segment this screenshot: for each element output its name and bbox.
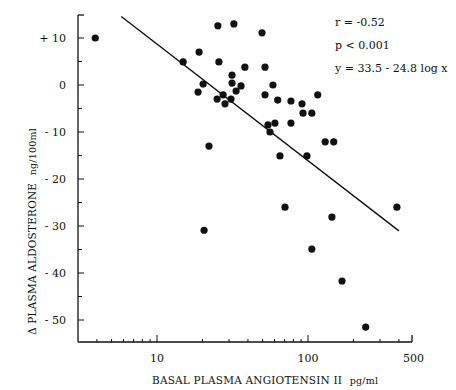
data-point xyxy=(261,91,268,98)
y-tick-label: - 10 xyxy=(45,126,66,139)
y-tick-label: - 50 xyxy=(45,314,66,327)
data-point xyxy=(271,119,278,126)
x-tick-label: 500 xyxy=(403,352,424,365)
data-point xyxy=(232,88,239,95)
data-point xyxy=(314,91,321,98)
data-point xyxy=(281,204,288,211)
data-point xyxy=(195,49,202,56)
y-tick-label: - 30 xyxy=(45,220,66,233)
svg-text:Δ PLASMA ALDOSTERONE ng/: Δ PLASMA ALDOSTERONE ng/100ml xyxy=(26,128,38,335)
data-point xyxy=(194,88,201,95)
data-point xyxy=(287,119,294,126)
statistics-annotation: r = -0.52 p < 0.001 y = 33.5 - 24.8 log … xyxy=(334,16,448,75)
y-tick-label: + 10 xyxy=(39,32,66,45)
regression-equation-label: y = 33.5 - 24.8 log x xyxy=(334,62,448,75)
data-point xyxy=(213,96,220,103)
y-axis-unit: ng/100ml xyxy=(27,128,38,175)
data-point xyxy=(228,72,235,79)
data-point xyxy=(266,128,273,135)
p-value-label: p < 0.001 xyxy=(335,39,390,52)
data-point xyxy=(274,96,281,103)
x-axis-title: BASAL PLASMA ANGIOTENSIN II pg/ml xyxy=(152,374,378,386)
data-point xyxy=(338,277,345,284)
data-point xyxy=(298,100,305,107)
x-tick-label: 100 xyxy=(298,352,319,365)
data-point xyxy=(269,81,276,88)
x-axis-label: BASAL PLASMA ANGIOTENSIN II xyxy=(152,374,342,386)
y-tick-label: 0 xyxy=(59,79,66,92)
x-axis-unit: pg/ml xyxy=(350,375,378,386)
y-axis-title: Δ PLASMA ALDOSTERONE ng/100ml xyxy=(26,128,38,335)
y-tick-label: - 40 xyxy=(45,267,66,280)
data-point xyxy=(221,100,228,107)
data-point xyxy=(258,29,265,36)
data-point xyxy=(92,34,99,41)
data-point xyxy=(393,204,400,211)
data-point xyxy=(276,152,283,159)
data-point xyxy=(220,91,227,98)
svg-text:BASAL PLASMA ANGIOTENSIN II: BASAL PLASMA ANGIOTENSIN II pg/ml xyxy=(152,374,378,386)
x-tick-label: 10 xyxy=(150,352,164,365)
data-point xyxy=(264,121,271,128)
scatter-chart: + 100- 10- 20- 30- 40- 5010100500 r = -0… xyxy=(0,0,456,390)
data-point xyxy=(322,138,329,145)
data-point xyxy=(200,227,207,234)
data-point xyxy=(330,138,337,145)
data-point xyxy=(228,80,235,87)
data-point xyxy=(205,143,212,150)
correlation-label: r = -0.52 xyxy=(335,16,385,29)
data-point xyxy=(308,110,315,117)
data-point xyxy=(328,213,335,220)
data-point xyxy=(214,22,221,29)
data-point xyxy=(299,110,306,117)
y-tick-label: - 20 xyxy=(45,173,66,186)
data-point xyxy=(227,96,234,103)
data-point xyxy=(200,80,207,87)
y-axis-label: Δ PLASMA ALDOSTERONE xyxy=(26,183,38,335)
data-point xyxy=(303,152,310,159)
data-point xyxy=(180,58,187,65)
data-point xyxy=(261,64,268,71)
data-point xyxy=(308,245,315,252)
data-point xyxy=(215,58,222,65)
data-point xyxy=(230,20,237,27)
data-point xyxy=(241,64,248,71)
data-point xyxy=(362,323,369,330)
data-point xyxy=(287,97,294,104)
